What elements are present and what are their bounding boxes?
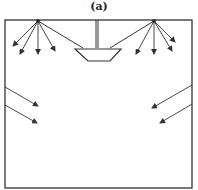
light-ray-arrow bbox=[13, 21, 38, 46]
left-wall-ray-arrow bbox=[5, 105, 37, 123]
support-line bbox=[110, 21, 154, 48]
right-wall-ray-arrow bbox=[160, 104, 192, 123]
lighting-diagram bbox=[0, 0, 198, 190]
pendant-bowl bbox=[75, 49, 121, 61]
light-point-icon bbox=[36, 19, 40, 23]
light-ray-arrow bbox=[20, 21, 38, 54]
right-wall-ray-arrow bbox=[152, 85, 192, 108]
light-ray-arrow bbox=[38, 21, 55, 51]
support-line bbox=[38, 21, 83, 48]
wall-reflection-rays bbox=[5, 85, 192, 123]
left-wall-ray-arrow bbox=[5, 87, 38, 106]
left-light-source bbox=[13, 19, 83, 54]
light-point-icon bbox=[152, 19, 156, 23]
pendant-lamp bbox=[75, 20, 121, 61]
